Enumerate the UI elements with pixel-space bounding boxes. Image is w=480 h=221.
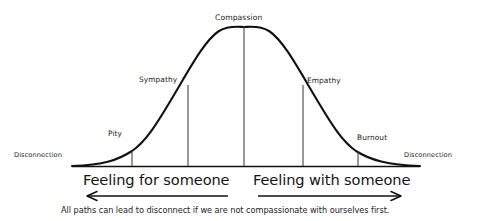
compassion-curve-diagram: Disconnection Pity Sympathy Compassion E… <box>0 0 480 221</box>
node-label-compassion: Compassion <box>215 13 262 22</box>
node-label-burnout: Burnout <box>357 133 387 142</box>
endpoint-label-left-disconnection: Disconnection <box>14 151 62 159</box>
node-label-pity: Pity <box>108 129 122 138</box>
right-direction-arrow <box>258 192 401 201</box>
diagram-caption: All paths can lead to disconnect if we a… <box>61 205 389 215</box>
left-direction-arrow <box>87 192 228 201</box>
node-label-empathy: Empathy <box>307 76 341 85</box>
band-label-feeling-for-someone: Feeling for someone <box>83 171 230 188</box>
node-label-sympathy: Sympathy <box>139 75 177 84</box>
band-label-feeling-with-someone: Feeling with someone <box>253 171 410 188</box>
endpoint-label-right-disconnection: Disconnection <box>404 151 452 159</box>
bell-curve-path <box>72 27 420 166</box>
